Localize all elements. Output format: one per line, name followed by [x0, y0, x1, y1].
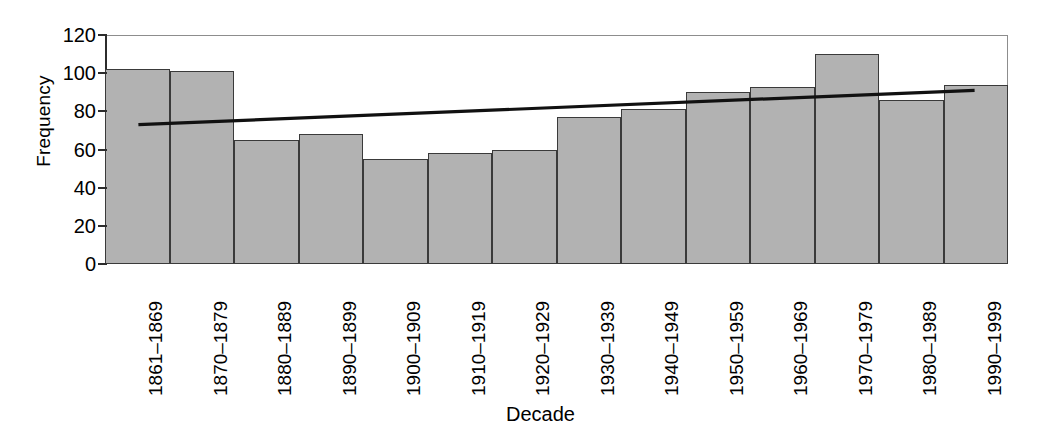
- x-tick-label: 1980–1989: [919, 301, 941, 396]
- x-tick-label: 1910–1919: [468, 301, 490, 396]
- chart-figure: Frequency 020406080100120 1861–18691870–…: [0, 0, 1045, 439]
- y-tick-label: 120: [36, 25, 96, 45]
- y-tick-label: 20: [36, 216, 96, 236]
- x-tick-label: 1940–1949: [661, 301, 683, 396]
- trend-line: [105, 35, 1008, 264]
- y-tick-label: 80: [36, 101, 96, 121]
- x-tick-label: 1861–1869: [145, 301, 167, 396]
- y-tick-mark: [98, 72, 107, 74]
- y-tick-mark: [98, 187, 107, 189]
- plot-area: [105, 35, 1008, 264]
- x-tick-label: 1920–1929: [532, 301, 554, 396]
- y-tick-label: 60: [36, 140, 96, 160]
- y-tick-mark: [98, 34, 107, 36]
- y-tick-label: 40: [36, 178, 96, 198]
- y-tick-label: 0: [36, 254, 96, 274]
- x-tick-label: 1990–1999: [984, 301, 1006, 396]
- x-tick-label: 1900–1909: [403, 301, 425, 396]
- y-tick-label: 100: [36, 63, 96, 83]
- x-tick-label: 1930–1939: [597, 301, 619, 396]
- x-tick-label: 1970–1979: [855, 301, 877, 396]
- x-tick-label: 1880–1889: [274, 301, 296, 396]
- y-tick-mark: [98, 263, 107, 265]
- x-tick-label: 1870–1879: [210, 301, 232, 396]
- y-axis-tick-labels: 020406080100120: [34, 0, 96, 439]
- x-tick-label: 1950–1959: [726, 301, 748, 396]
- x-tick-label: 1960–1969: [790, 301, 812, 396]
- x-axis-title-text: Decade: [506, 403, 575, 425]
- y-tick-mark: [98, 225, 107, 227]
- y-tick-mark: [98, 149, 107, 151]
- y-tick-mark: [98, 110, 107, 112]
- x-axis-title: Decade: [0, 403, 1045, 426]
- x-tick-label: 1890–1899: [339, 301, 361, 396]
